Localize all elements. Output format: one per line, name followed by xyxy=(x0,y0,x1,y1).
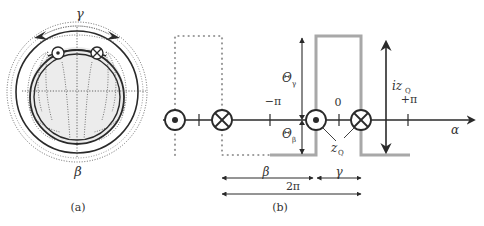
label-neg-pi: −π xyxy=(265,95,281,108)
conductor-dot-icon xyxy=(52,47,64,59)
label-dim-2pi: 2π xyxy=(286,180,300,193)
svg-text:Θ: Θ xyxy=(282,71,292,85)
svg-text:Q: Q xyxy=(338,149,344,157)
svg-text:Θ: Θ xyxy=(282,127,292,141)
svg-text:z: z xyxy=(330,141,338,155)
panel-a-cross-section xyxy=(7,22,147,162)
panel-b-waveform xyxy=(163,36,474,194)
label-izq: iz Q xyxy=(392,79,411,95)
caption-b: (b) xyxy=(272,201,288,214)
label-zq: z Q xyxy=(330,141,344,157)
conductor-cross-left-icon xyxy=(212,110,232,130)
label-beta-a: β xyxy=(73,164,82,179)
label-dim-beta: β xyxy=(262,165,270,179)
label-alpha: α xyxy=(451,123,459,137)
svg-text:β: β xyxy=(292,136,296,144)
label-theta-gamma: Θ γ xyxy=(282,71,296,88)
label-dim-gamma: γ xyxy=(335,165,343,179)
label-gamma-a: γ xyxy=(76,6,84,21)
svg-text:iz: iz xyxy=(392,79,403,93)
caption-a: (a) xyxy=(70,201,85,214)
conductor-dot-left-icon xyxy=(165,110,185,130)
conductor-cross-right-icon xyxy=(351,110,371,130)
label-zero: 0 xyxy=(335,96,342,109)
label-theta-beta: Θ β xyxy=(282,127,296,144)
figure-canvas: γ β (a) xyxy=(0,0,484,226)
svg-text:Q: Q xyxy=(405,87,411,95)
svg-text:γ: γ xyxy=(292,80,296,88)
conductor-dot-right-icon xyxy=(306,110,326,130)
conductor-cross-icon xyxy=(91,47,103,59)
